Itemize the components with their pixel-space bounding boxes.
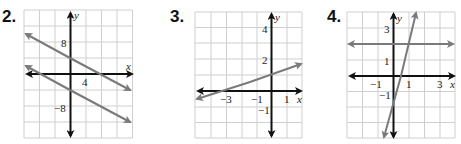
tick-label: 1 bbox=[406, 78, 412, 90]
tick-label: 2 bbox=[262, 54, 268, 66]
tick-label: 1 bbox=[284, 93, 290, 105]
tick-label: 8 bbox=[61, 37, 67, 49]
tick-label: 4 bbox=[262, 23, 268, 35]
graph-4: y x 3 1 −1 1 3 −1 bbox=[347, 12, 455, 138]
graph-3: y x 4 2 −3 −1 1 −1 bbox=[195, 11, 302, 138]
tick-label: −8 bbox=[54, 102, 66, 114]
y-axis-label: y bbox=[396, 12, 402, 24]
tick-label: 4 bbox=[82, 76, 88, 88]
tick-label: −3 bbox=[220, 93, 232, 105]
tick-label: 3 bbox=[437, 78, 443, 90]
tick-label: −1 bbox=[258, 104, 270, 116]
y-axis-label: y bbox=[274, 11, 280, 23]
tick-label: 3 bbox=[384, 23, 390, 35]
graphs: y x 8 4 −8 y x 4 2 −3 −1 1 −1 bbox=[0, 0, 461, 144]
line-lower bbox=[26, 66, 70, 90]
tick-label: −1 bbox=[379, 89, 391, 101]
graph-2: y x 8 4 −8 bbox=[24, 9, 133, 138]
x-axis-label: x bbox=[296, 93, 302, 105]
x-axis-label: x bbox=[125, 60, 131, 72]
grid bbox=[195, 12, 302, 138]
x-axis-label: x bbox=[449, 78, 455, 90]
tick-label: 1 bbox=[384, 55, 390, 67]
y-axis-label: y bbox=[73, 9, 79, 21]
